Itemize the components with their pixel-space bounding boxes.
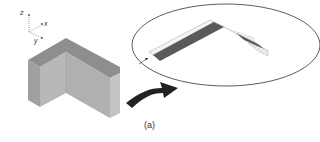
figure-canvas [0, 0, 320, 142]
l-shaped-block [28, 38, 120, 118]
curved-arrow-icon [126, 82, 178, 108]
axis-label-y: y [34, 37, 38, 44]
axis-label-z: z [20, 9, 24, 16]
zoom-inset-ellipse [132, 4, 320, 86]
figure: z x y (a) [0, 0, 320, 142]
figure-caption: (a) [144, 120, 155, 130]
axis-label-x: x [44, 20, 48, 27]
axis-triad-icon [28, 14, 43, 39]
